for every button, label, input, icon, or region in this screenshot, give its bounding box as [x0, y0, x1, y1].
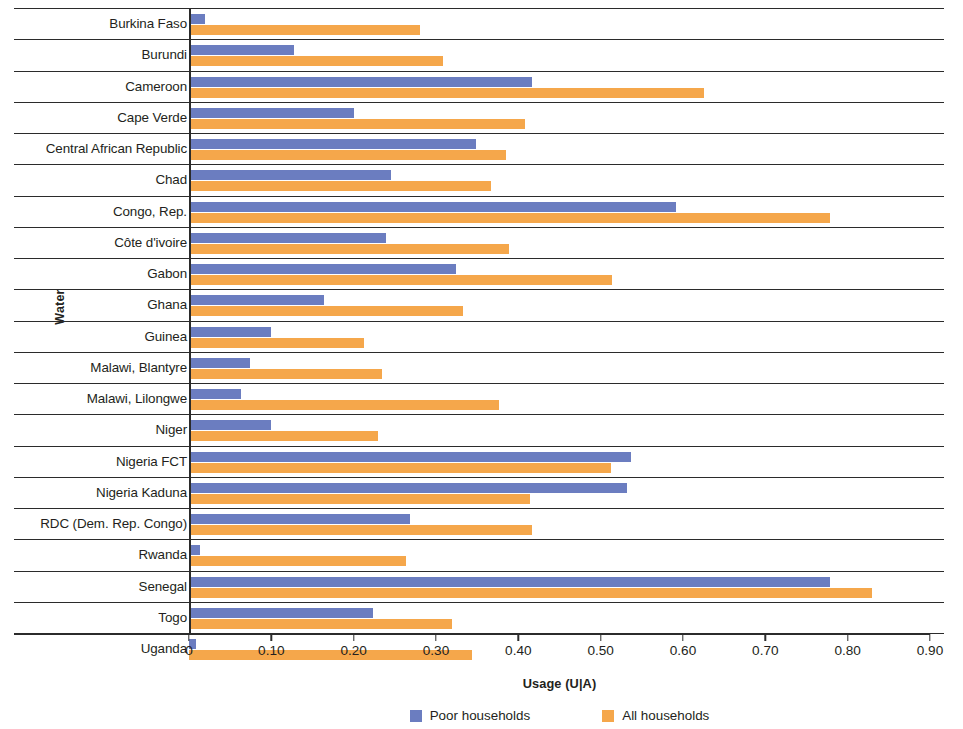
- bar-poor-households: [189, 514, 410, 524]
- chart-row: Nigeria FCT: [14, 446, 944, 477]
- bar-group: [189, 165, 944, 195]
- bar-poor-households: [189, 170, 391, 180]
- legend-swatch-icon: [602, 710, 614, 722]
- category-label: Central African Republic: [46, 142, 187, 155]
- bar-all-households: [189, 275, 612, 285]
- chart-row: Rwanda: [14, 539, 944, 570]
- y-axis-line: [189, 8, 191, 635]
- bar-group: [189, 72, 944, 102]
- x-axis-ticks: 00.100.200.300.400.500.600.700.800.90: [189, 634, 930, 642]
- bar-group: [189, 447, 944, 477]
- x-tick-label: 0: [185, 643, 193, 658]
- bar-poor-households: [189, 327, 271, 337]
- category-label: Malawi, Blantyre: [90, 361, 187, 374]
- chart-row: Niger: [14, 414, 944, 445]
- bar-all-households: [189, 525, 532, 535]
- bar-poor-households: [189, 483, 627, 493]
- bar-all-households: [189, 369, 382, 379]
- bar-all-households: [189, 494, 530, 504]
- category-label: Guinea: [144, 330, 187, 343]
- bar-poor-households: [189, 420, 271, 430]
- bar-poor-households: [189, 452, 631, 462]
- legend-item[interactable]: Poor households: [410, 708, 531, 723]
- x-tick-label: 0.20: [340, 643, 366, 658]
- chart-row: Côte d'ivoire: [14, 227, 944, 258]
- chart-row: Malawi, Blantyre: [14, 352, 944, 383]
- category-label: Chad: [155, 174, 187, 187]
- bar-group: [189, 384, 944, 414]
- bar-group: [189, 197, 944, 227]
- bar-group: [189, 134, 944, 164]
- category-label: Niger: [156, 424, 188, 437]
- bar-poor-households: [189, 139, 476, 149]
- x-tick-mark: [929, 634, 930, 641]
- x-tick-label: 0.80: [834, 643, 860, 658]
- x-tick-mark: [435, 634, 436, 641]
- chart-row: Central African Republic: [14, 133, 944, 164]
- chart-row: Cape Verde: [14, 102, 944, 133]
- category-label: Nigeria FCT: [116, 455, 187, 468]
- bar-all-households: [189, 556, 406, 566]
- bar-all-households: [189, 306, 463, 316]
- bar-all-households: [189, 463, 611, 473]
- category-label: Nigeria Kaduna: [96, 486, 187, 499]
- bar-all-households: [189, 431, 378, 441]
- chart-row: Togo: [14, 602, 944, 633]
- bar-all-households: [189, 119, 525, 129]
- bar-poor-households: [189, 233, 386, 243]
- bar-group: [189, 415, 944, 445]
- x-tick-mark: [518, 634, 519, 641]
- category-label: Rwanda: [138, 549, 187, 562]
- chart-plot-area: Burkina FasoBurundiCameroonCape VerdeCen…: [14, 8, 944, 633]
- x-tick-mark: [271, 634, 272, 641]
- bar-poor-households: [189, 358, 250, 368]
- category-label: Côte d'ivoire: [114, 236, 187, 249]
- x-tick-label: 0.90: [917, 643, 943, 658]
- bar-all-households: [189, 588, 872, 598]
- category-label: Cameroon: [125, 80, 187, 93]
- bar-group: [189, 259, 944, 289]
- chart-row: Burundi: [14, 39, 944, 70]
- bar-group: [189, 509, 944, 539]
- bar-group: [189, 9, 944, 39]
- x-tick-label: 0.50: [587, 643, 613, 658]
- chart-row: Congo, Rep.: [14, 196, 944, 227]
- bar-poor-households: [189, 545, 200, 555]
- legend-label: All households: [622, 708, 709, 723]
- chart-row: Burkina Faso: [14, 8, 944, 39]
- chart-row: RDC (Dem. Rep. Congo): [14, 508, 944, 539]
- category-label: Burundi: [142, 49, 187, 62]
- legend-label: Poor households: [430, 708, 531, 723]
- x-tick-mark: [682, 634, 683, 641]
- bar-all-households: [189, 88, 704, 98]
- bar-all-households: [189, 400, 499, 410]
- bar-poor-households: [189, 108, 354, 118]
- bar-poor-households: [189, 14, 205, 24]
- category-label: Malawi, Lilongwe: [87, 392, 187, 405]
- bar-group: [189, 40, 944, 70]
- bar-poor-households: [189, 389, 241, 399]
- x-tick-mark: [188, 634, 189, 641]
- chart-row: Malawi, Lilongwe: [14, 383, 944, 414]
- category-label: Togo: [158, 611, 187, 624]
- bar-poor-households: [189, 202, 676, 212]
- bar-all-households: [189, 150, 506, 160]
- x-tick-mark: [847, 634, 848, 641]
- bar-group: [189, 572, 944, 602]
- category-label: Uganda: [141, 642, 187, 655]
- legend-item[interactable]: All households: [602, 708, 709, 723]
- x-axis-title: Usage (U|A): [189, 676, 930, 691]
- bar-all-households: [189, 25, 420, 35]
- category-label: Senegal: [139, 580, 187, 593]
- bar-group: [189, 103, 944, 133]
- bar-all-households: [189, 338, 364, 348]
- x-tick-label: 0.30: [423, 643, 449, 658]
- chart-row: Gabon: [14, 258, 944, 289]
- bar-poor-households: [189, 77, 532, 87]
- x-tick-label: 0.70: [752, 643, 778, 658]
- bar-poor-households: [189, 45, 294, 55]
- x-tick-label: 0.40: [505, 643, 531, 658]
- bar-all-households: [189, 213, 830, 223]
- chart-row: Ghana: [14, 289, 944, 320]
- bar-group: [189, 603, 944, 633]
